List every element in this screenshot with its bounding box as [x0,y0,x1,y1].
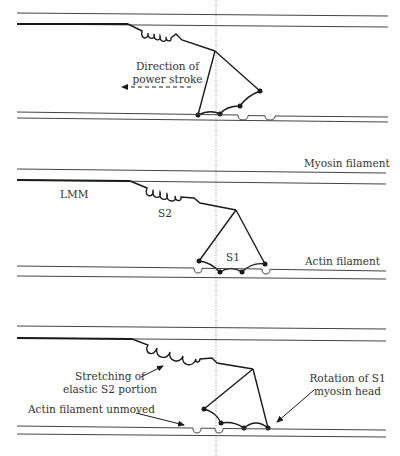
direction-label-line1: Direction of [130,60,205,73]
myosin-filament [17,169,386,184]
direction-label-line2: power stroke [130,73,205,86]
s2-spring [128,24,215,51]
s2-spring [132,339,253,369]
myosin-filament [17,326,386,341]
rotation-label-line2: myosin head [305,385,390,398]
s1-head [196,51,263,118]
stretch-label-line1: Stretching of [65,370,155,383]
lmm-label: LMM [60,188,88,201]
myosin-filament-label: Myosin filament [304,157,390,170]
actin-filament-label: Actin filament [305,255,380,268]
s1-head [197,210,268,275]
s2-spring [130,181,236,210]
s1-label: S1 [226,251,240,264]
stretch-label-line2: elastic S2 portion [55,383,165,396]
s1-head [202,369,271,431]
actin-filament [17,426,386,437]
myosin-filament [17,13,388,27]
rotation-label-line1: Rotation of S1 [305,372,390,385]
s2-label: S2 [158,207,172,220]
actin-unmoved-label: Actin filament unmoved [28,403,155,416]
